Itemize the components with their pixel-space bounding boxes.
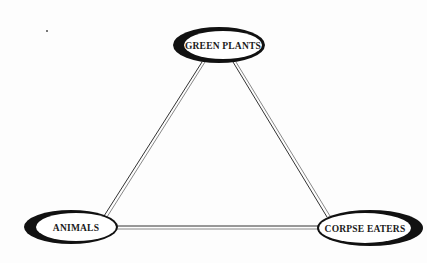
edge-animals-corpse-eaters (112, 226, 322, 229)
node-label-animals: ANIMALS (53, 223, 99, 233)
node-green-plants: GREEN PLANTS (173, 27, 265, 63)
edge-plants-animals (104, 62, 205, 217)
node-label-green-plants: GREEN PLANTS (185, 41, 261, 51)
node-corpse-eaters: CORPSE EATERS (317, 210, 423, 246)
edge-plants-corpse-eaters (233, 62, 330, 217)
ecosystem-cycle-diagram: GREEN PLANTS ANIMALS CORPSE EATERS (0, 0, 427, 263)
node-label-corpse-eaters: CORPSE EATERS (325, 224, 406, 234)
node-animals: ANIMALS (24, 210, 118, 244)
stray-mark (46, 30, 48, 32)
